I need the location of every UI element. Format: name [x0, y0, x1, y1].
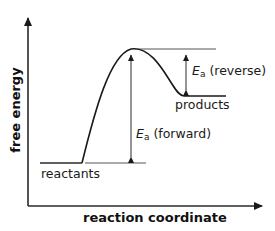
ea-forward-subscript: a [144, 132, 150, 142]
ea-reverse-symbol: E [192, 63, 200, 78]
ea-reverse-label: Ea (reverse) [192, 65, 266, 79]
ea-reverse-text: (reverse) [209, 63, 266, 78]
products-label: products [175, 99, 230, 112]
reactants-label: reactants [41, 168, 100, 181]
energy-diagram [0, 0, 275, 231]
ea-forward-text: (forward) [153, 126, 211, 141]
ea-reverse-subscript: a [200, 69, 206, 79]
ea-forward-label: Ea (forward) [136, 128, 211, 142]
y-axis-label: free energy [9, 67, 22, 152]
x-axis-label: reaction coordinate [83, 211, 227, 224]
ea-forward-symbol: E [136, 126, 144, 141]
